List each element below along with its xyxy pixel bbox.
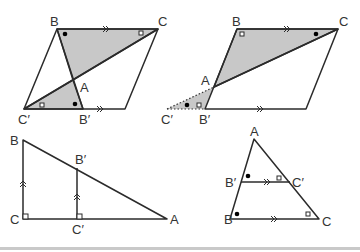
triangle-abc — [23, 140, 167, 219]
label-b-prime: B′ — [79, 112, 91, 127]
angle-dot-icon — [185, 103, 190, 108]
angle-square-icon — [139, 31, 143, 35]
figure-2: B C A C′ B′ — [161, 14, 348, 127]
angle-square-icon — [306, 212, 310, 216]
label-b: B — [232, 14, 241, 29]
triangle-abc — [230, 139, 319, 219]
label-b-prime: B′ — [225, 175, 237, 190]
label-c-prime: C′ — [161, 112, 173, 127]
angle-square-icon — [40, 103, 44, 107]
label-c: C — [10, 212, 19, 227]
label-b: B — [10, 133, 19, 148]
right-angle-icon — [23, 214, 28, 219]
similar-triangles-diagram: B C A C′ B′ B C A C′ B′ B C A B′ C — [0, 0, 360, 252]
label-b-prime: B′ — [199, 112, 211, 127]
label-c: C — [339, 14, 348, 29]
bottom-divider — [0, 247, 360, 250]
label-c-prime: C′ — [292, 175, 304, 190]
label-c: C — [158, 14, 167, 29]
label-c: C — [322, 214, 331, 229]
label-b: B — [224, 212, 233, 227]
angle-square-icon — [197, 103, 201, 107]
angle-square-icon — [277, 176, 281, 180]
label-a: A — [80, 80, 89, 95]
label-b: B — [50, 14, 59, 29]
label-c-prime: C′ — [18, 112, 30, 127]
angle-dot-icon — [73, 102, 78, 107]
figure-1: B C A C′ B′ — [18, 14, 167, 127]
label-c-prime: C′ — [72, 222, 84, 237]
label-a: A — [170, 212, 179, 227]
angle-dot-icon — [63, 32, 68, 37]
label-a: A — [201, 73, 210, 88]
figure-4: A B C B′ C′ — [224, 124, 331, 229]
label-a: A — [250, 124, 259, 139]
angle-dot-icon — [235, 212, 240, 217]
label-b-prime: B′ — [75, 152, 87, 167]
angle-square-icon — [240, 32, 244, 36]
shaded-triangle-abc — [57, 29, 158, 80]
right-angle-icon — [77, 214, 82, 219]
figure-3: B C A B′ C′ — [10, 133, 179, 237]
angle-dot-icon — [314, 32, 319, 37]
angle-dot-icon — [246, 174, 251, 179]
